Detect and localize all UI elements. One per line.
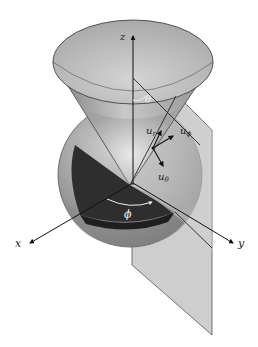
x-label: x — [15, 237, 22, 250]
theta-label: θ — [145, 93, 151, 104]
spherical-coordinates-diagram: z θ ur uϕ uθ x y ϕ — [0, 0, 258, 347]
phi-label: ϕ — [124, 208, 132, 221]
point-p — [152, 147, 155, 150]
y-label: y — [237, 237, 245, 250]
z-label: z — [119, 31, 126, 42]
